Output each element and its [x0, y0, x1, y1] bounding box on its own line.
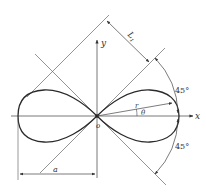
dimension-a-label: a — [53, 165, 58, 174]
dimension-L1 — [107, 21, 149, 62]
angle-label-upper: 45° — [175, 86, 189, 95]
origin-label: o — [96, 122, 100, 130]
x-axis-label: x — [195, 111, 200, 121]
lemniscate-diagram: x y o r θ a L1 45° 45° — [0, 0, 206, 193]
theta-arc — [136, 109, 137, 116]
y-axis-label: y — [100, 38, 107, 48]
dimension-L-label: L1 — [124, 29, 138, 43]
angle-label-lower: 45° — [175, 142, 189, 151]
